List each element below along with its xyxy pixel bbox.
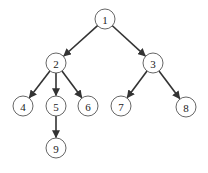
edge-1-3	[112, 26, 145, 56]
node-label: 2	[53, 58, 59, 70]
node-label: 7	[118, 101, 124, 113]
tree-node-4: 4	[13, 96, 33, 116]
tree-diagram: 123456789	[0, 0, 208, 173]
node-label: 5	[53, 101, 59, 113]
edges-layer	[29, 26, 179, 138]
tree-node-1: 1	[95, 9, 115, 29]
node-label: 8	[183, 102, 189, 114]
tree-node-5: 5	[46, 96, 66, 116]
edge-2-4	[29, 71, 50, 98]
tree-node-8: 8	[176, 97, 196, 117]
node-label: 9	[53, 143, 59, 155]
tree-node-2: 2	[46, 53, 66, 73]
tree-node-9: 9	[46, 138, 66, 158]
tree-node-3: 3	[143, 53, 163, 73]
edge-2-6	[62, 71, 82, 98]
node-label: 4	[20, 101, 26, 113]
tree-node-7: 7	[111, 96, 131, 116]
node-label: 1	[102, 14, 108, 26]
edge-3-7	[127, 71, 147, 98]
node-label: 3	[150, 58, 156, 70]
tree-node-6: 6	[78, 96, 98, 116]
edge-3-8	[159, 71, 180, 99]
node-label: 6	[85, 101, 91, 113]
edge-1-2	[64, 26, 98, 56]
